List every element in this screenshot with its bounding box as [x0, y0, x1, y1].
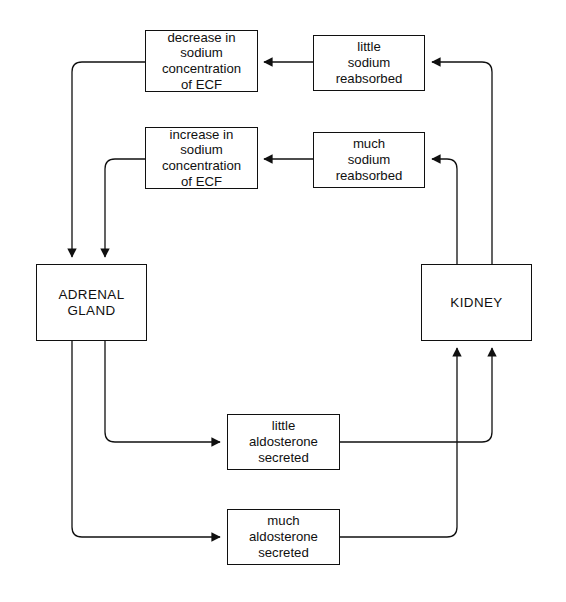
flowchart-diagram: decrease in sodium concentration of ECF …: [0, 0, 566, 602]
edge-adrenal-gland-to-little-aldosterone: [105, 341, 220, 442]
node-much-sodium-reabsorbed-label: much sodium reabsorbed: [333, 136, 406, 183]
node-little-sodium-reabsorbed-label: little sodium reabsorbed: [333, 39, 406, 86]
node-decrease-sodium-concentration-ecf-label: decrease in sodium concentration of ECF: [159, 30, 244, 93]
node-adrenal-gland: ADRENAL GLAND: [36, 264, 147, 341]
edge-kidney-to-little-reabsorbed: [432, 62, 492, 264]
edge-much-aldosterone-to-kidney: [340, 348, 457, 537]
edge-adrenal-gland-to-much-aldosterone: [72, 341, 220, 537]
node-kidney-label: KIDNEY: [447, 295, 505, 311]
node-decrease-sodium-concentration-ecf: decrease in sodium concentration of ECF: [145, 30, 258, 92]
edge-decrease-ecf-to-adrenal-gland: [72, 62, 145, 257]
node-increase-sodium-concentration-ecf: increase in sodium concentration of ECF: [145, 127, 258, 189]
edge-little-aldosterone-to-kidney: [340, 348, 492, 442]
edge-kidney-to-much-reabsorbed: [432, 159, 457, 264]
node-little-aldosterone-secreted-label: little aldosterone secreted: [246, 418, 321, 465]
node-little-sodium-reabsorbed: little sodium reabsorbed: [313, 35, 425, 91]
node-much-aldosterone-secreted: much aldosterone secreted: [227, 509, 340, 565]
node-little-aldosterone-secreted: little aldosterone secreted: [227, 414, 340, 470]
node-much-sodium-reabsorbed: much sodium reabsorbed: [313, 132, 425, 188]
node-increase-sodium-concentration-ecf-label: increase in sodium concentration of ECF: [159, 127, 244, 190]
node-adrenal-gland-label: ADRENAL GLAND: [55, 287, 127, 319]
edge-increase-ecf-to-adrenal-gland: [105, 159, 145, 257]
node-kidney: KIDNEY: [421, 264, 532, 341]
node-much-aldosterone-secreted-label: much aldosterone secreted: [246, 513, 321, 560]
